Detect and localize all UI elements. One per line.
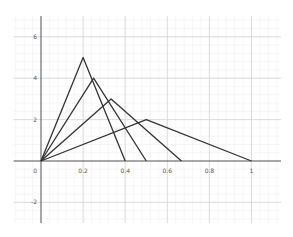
x-tick-label: 0.2 bbox=[78, 167, 88, 174]
x-tick-label: 0.4 bbox=[120, 167, 130, 174]
origin-label: 0 bbox=[33, 167, 37, 174]
series-lines bbox=[41, 58, 252, 162]
y-tick-label: 2 bbox=[33, 116, 37, 123]
plot-area: 0.20.40.60.81-22460 bbox=[0, 0, 293, 237]
y-tick-label: -2 bbox=[31, 198, 37, 205]
y-tick-label: 6 bbox=[33, 33, 37, 40]
series-line-triangle-4 bbox=[41, 120, 252, 161]
y-tick-label: 4 bbox=[33, 74, 37, 81]
x-tick-label: 0.8 bbox=[205, 167, 215, 174]
x-tick-label: 0.6 bbox=[163, 167, 173, 174]
x-tick-label: 1 bbox=[250, 167, 254, 174]
